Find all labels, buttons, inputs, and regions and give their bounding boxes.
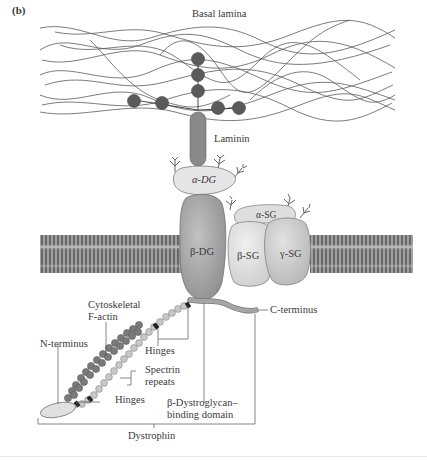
dystrophin-complex-diagram [0, 0, 427, 460]
label-alpha-sg: α-SG [256, 209, 276, 221]
cytoskeletal-f-actin-beads [64, 321, 142, 401]
label-n-terminus: N-terminus [40, 338, 88, 350]
label-dystrophin: Dystrophin [128, 430, 175, 442]
label-c-terminus: C-terminus [270, 304, 317, 316]
label-repeats: repeats [145, 376, 175, 388]
bottom-divider [0, 456, 427, 457]
label-cytoskeletal: Cytoskeletal [88, 299, 141, 311]
label-hinges-lower: Hinges [115, 394, 145, 406]
label-basal-lamina: Basal lamina [192, 8, 247, 20]
label-beta-sg: β-SG [237, 250, 259, 262]
label-spectrin: Spectrin [145, 364, 180, 376]
label-bdg-binding-2: binding domain [167, 409, 233, 421]
label-beta-dg: β-DG [190, 246, 214, 258]
label-hinges-upper: Hinges [145, 345, 175, 357]
laminin-globular-domains [128, 53, 246, 115]
label-laminin: Laminin [214, 133, 250, 145]
label-bdg-binding-1: β-Dystroglycan– [167, 397, 238, 409]
panel-label: (b) [12, 4, 25, 16]
sarcolemma-membrane-left [40, 235, 190, 273]
label-f-actin: F-actin [88, 311, 118, 323]
label-alpha-dg: α-DG [192, 174, 216, 186]
label-gamma-sg: γ-SG [280, 248, 302, 260]
laminin-stalk [190, 112, 206, 166]
sarcolemma-membrane-right [310, 235, 413, 273]
